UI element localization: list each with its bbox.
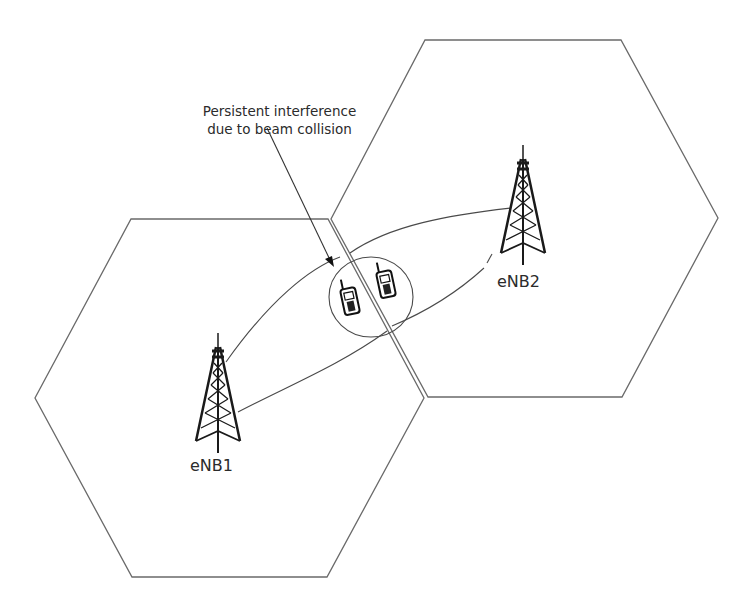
beam-lines xyxy=(226,208,511,412)
beam-lower xyxy=(238,331,387,412)
cell-1-hexagon xyxy=(35,219,424,577)
network-diagram xyxy=(0,0,750,603)
callout-line-1: Persistent interference xyxy=(187,102,372,120)
interference-callout: Persistent interference due to beam coll… xyxy=(187,102,372,138)
enb1-label: eNB1 xyxy=(190,456,233,475)
beam-upper xyxy=(226,257,340,362)
beam-lower-enb2-tip xyxy=(487,254,492,263)
callout-arrow xyxy=(267,128,334,267)
mobile-phone-icon xyxy=(374,260,396,298)
cell-tower-icon xyxy=(501,145,545,265)
callout-line-2: due to beam collision xyxy=(187,120,372,138)
mobile-phone-icon xyxy=(338,277,360,315)
enb2-label: eNB2 xyxy=(497,272,540,291)
beam-upper-enb2 xyxy=(350,208,511,253)
beam-lower-enb2 xyxy=(392,268,484,326)
